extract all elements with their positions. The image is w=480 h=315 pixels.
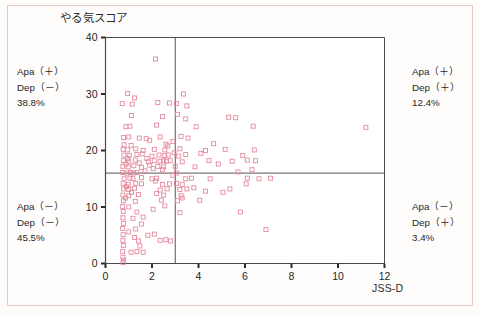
- y-tick-label-40: 40: [86, 31, 98, 43]
- quadrant-tl-dep: Dep（－）: [17, 80, 65, 96]
- y-axis-title: やる気スコア: [60, 9, 128, 25]
- x-tick-label-6: 6: [242, 270, 248, 282]
- x-tick-label-4: 4: [196, 270, 202, 282]
- x-tick-label-8: 8: [289, 270, 295, 282]
- x-tick-label-10: 10: [332, 270, 344, 282]
- quadrant-br-apa: Apa（－）: [412, 199, 460, 215]
- scatter-plot-canvas: 010203040024681012: [0, 0, 480, 315]
- x-tick-label-2: 2: [149, 270, 155, 282]
- quadrant-br-percent: 3.4%: [412, 230, 460, 246]
- plot-area-background: [106, 38, 385, 264]
- quadrant-label-bottom-left: Apa（－） Dep（－） 45.5%: [17, 199, 65, 246]
- quadrant-bl-percent: 45.5%: [17, 230, 65, 246]
- x-tick-label-0: 0: [103, 270, 109, 282]
- y-tick-label-20: 20: [86, 144, 98, 156]
- x-axis-title: JSS-D: [372, 282, 403, 294]
- quadrant-bl-dep: Dep（－）: [17, 215, 65, 231]
- quadrant-label-top-left: Apa（＋） Dep（－） 38.8%: [17, 64, 65, 111]
- quadrant-tr-dep: Dep（＋）: [412, 80, 460, 96]
- figure-root: 010203040024681012 やる気スコア JSS-D Apa（＋） D…: [0, 0, 480, 315]
- quadrant-label-top-right: Apa（＋） Dep（＋） 12.4%: [412, 64, 460, 111]
- quadrant-tl-apa: Apa（＋）: [17, 64, 65, 80]
- quadrant-bl-apa: Apa（－）: [17, 199, 65, 215]
- x-tick-label-12: 12: [379, 270, 391, 282]
- quadrant-tr-percent: 12.4%: [412, 95, 460, 111]
- quadrant-label-bottom-right: Apa（－） Dep（＋） 3.4%: [412, 199, 460, 246]
- quadrant-tr-apa: Apa（＋）: [412, 64, 460, 80]
- y-tick-label-0: 0: [92, 257, 98, 269]
- quadrant-tl-percent: 38.8%: [17, 95, 65, 111]
- quadrant-br-dep: Dep（＋）: [412, 215, 460, 231]
- y-tick-label-10: 10: [86, 201, 98, 213]
- y-tick-label-30: 30: [86, 88, 98, 100]
